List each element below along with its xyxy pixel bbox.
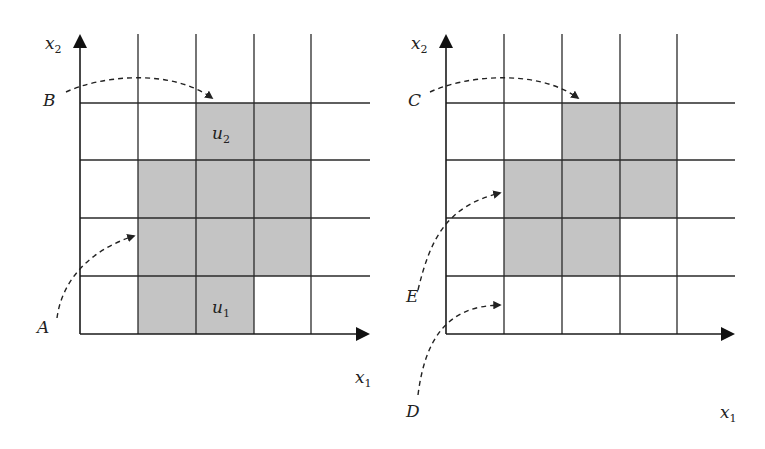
point-label-d: D [405, 401, 420, 421]
point-label-b: B [42, 90, 56, 110]
arrow-a [57, 236, 134, 318]
point-label-a: A [35, 317, 49, 337]
right-x-axis-label: x1 [720, 402, 737, 425]
x-axis-arrow-icon [356, 327, 370, 341]
x-axis-arrow-icon [721, 327, 735, 341]
right-shaded-region [504, 103, 677, 276]
left-y-axis-label: x2 [45, 33, 62, 56]
left-x-axis-label: x1 [355, 367, 372, 390]
arrow-d [418, 305, 500, 395]
y-axis-arrow-icon [73, 34, 87, 48]
right-panel: x2 x1 C E D [405, 33, 737, 425]
point-label-e: E [405, 286, 419, 306]
grid-diagram: x2 x1 u2 u1 B A [0, 0, 765, 449]
y-axis-arrow-icon [439, 34, 453, 48]
left-panel: x2 x1 u2 u1 B A [35, 33, 372, 390]
arrow-b [66, 78, 212, 98]
point-label-c: C [408, 90, 421, 110]
right-y-axis-label: x2 [411, 33, 428, 56]
